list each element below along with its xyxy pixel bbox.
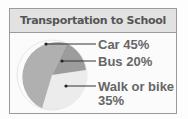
label-bus: Bus 20% — [98, 55, 152, 68]
label-car: Car 45% — [98, 38, 149, 51]
label-walk-line1: Walk or bike — [98, 80, 174, 93]
label-walk-line2: 35% — [98, 94, 124, 107]
pie-chart — [0, 0, 188, 119]
